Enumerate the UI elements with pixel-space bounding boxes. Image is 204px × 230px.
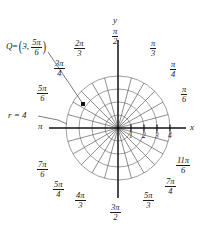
y-axis-label: y	[113, 15, 117, 25]
angle-label-eleven-pi-over-6: 11π 6	[176, 156, 190, 175]
angle-label-seven-pi-over-6: 7π 6	[37, 160, 48, 179]
angle-denominator: 6	[181, 95, 187, 104]
angle-denominator: 4	[165, 187, 176, 196]
angle-label-pi-over-3: π 3	[150, 39, 156, 58]
point-annotation-q: Q=(3, 5π 6 )	[6, 38, 46, 57]
paren-open: (	[18, 39, 21, 55]
angle-denominator: 3	[74, 49, 85, 58]
angle-label-four-pi-over-3: 4π 3	[75, 191, 86, 210]
angle-label-pi-over-2: π 2	[112, 27, 118, 46]
ray-105	[105, 78, 118, 128]
angle-label-five-pi-over-6: 5π 6	[37, 84, 48, 103]
angle-denominator: 4	[53, 190, 64, 199]
angle-label-pi-over-6: π 6	[181, 85, 187, 104]
x-tick-label-4: 4	[168, 131, 172, 140]
ray-75	[118, 78, 131, 128]
angle-label-seven-pi-over-4: 7π 4	[165, 177, 176, 196]
angle-label-pi-over-4: π 4	[170, 60, 176, 79]
x-tick-label-2: 2	[142, 131, 146, 140]
angle-label-two-pi-over-3: 2π 3	[74, 39, 85, 58]
angle-denominator: 2	[110, 213, 121, 222]
angle-label-five-pi-over-4: 5π 4	[53, 180, 64, 199]
polar-coordinate-diagram: x y 1 2 3 4 π 2 π 3 π 4 π 6 2π	[0, 0, 204, 230]
angle-label-three-pi-over-4: 3π 4	[54, 59, 65, 78]
point-comma: ,	[27, 41, 29, 51]
point-marker-q	[81, 102, 85, 106]
axes	[49, 40, 186, 198]
point-equals: =	[13, 41, 18, 51]
ray-15	[118, 115, 168, 128]
angle-denominator: 2	[112, 37, 118, 46]
angle-label-three-pi-over-2: 3π 2	[110, 203, 121, 222]
angle-denominator: 3	[150, 49, 156, 58]
x-tick-label-1: 1	[129, 131, 133, 140]
radius-callout-label: r = 4	[8, 110, 27, 120]
angle-denominator: 3	[143, 201, 154, 210]
angle-label-pi: π	[38, 122, 43, 131]
angle-denominator: 3	[75, 201, 86, 210]
x-tick-label-3: 3	[155, 131, 159, 140]
paren-close: )	[42, 39, 45, 55]
ray-165	[68, 115, 118, 128]
ray-195	[68, 128, 118, 141]
angle-label-five-pi-over-3: 5π 3	[143, 191, 154, 210]
angle-denominator: 6	[37, 170, 48, 179]
angle-denominator: 4	[170, 70, 176, 79]
angle-denominator: 4	[54, 69, 65, 78]
angle-denominator: 6	[176, 166, 190, 175]
angle-denominator: 6	[37, 94, 48, 103]
point-theta-denominator: 6	[31, 48, 42, 57]
x-axis-label: x	[190, 122, 194, 132]
ray-255	[105, 128, 118, 178]
